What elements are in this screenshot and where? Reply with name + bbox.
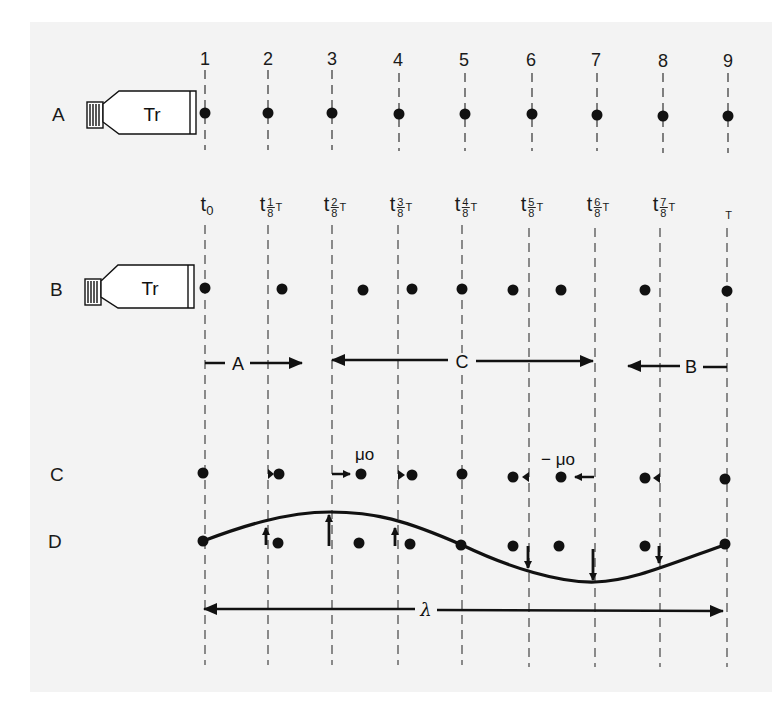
region-label-a: A bbox=[228, 355, 248, 373]
diagram-graphics: Tr Tr bbox=[0, 0, 772, 710]
row-a-particles bbox=[200, 108, 734, 122]
wavelength-label: λ bbox=[416, 601, 435, 619]
row-c-particles bbox=[198, 468, 731, 485]
velocity-label-negative: − μo bbox=[541, 451, 575, 468]
ultrasound-wave-diagram: A B C D 1 2 3 4 5 6 7 8 9 t0 t18T t28T t… bbox=[0, 0, 772, 710]
row-b-particles bbox=[200, 283, 733, 297]
wavelength-arrow bbox=[204, 609, 723, 611]
transducer-b-label: Tr bbox=[141, 278, 159, 299]
region-label-b: B bbox=[681, 358, 701, 376]
transducer-b bbox=[85, 265, 194, 308]
transducer-a bbox=[87, 91, 196, 134]
velocity-label-positive: μo bbox=[355, 446, 374, 463]
row-d-particles bbox=[198, 536, 731, 552]
transducer-a-label: Tr bbox=[143, 104, 161, 125]
region-label-c: C bbox=[452, 353, 473, 371]
